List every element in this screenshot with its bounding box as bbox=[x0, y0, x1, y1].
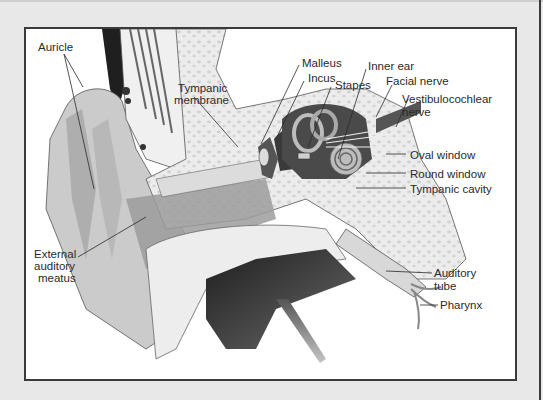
label-auditory-tube-line2: tube bbox=[434, 280, 456, 292]
page-right-edge bbox=[539, 0, 541, 400]
label-auditory-tube-line1: Auditory bbox=[434, 267, 476, 279]
label-inner-ear: Inner ear bbox=[368, 60, 414, 72]
label-vestibulocochlear-nerve-line2: nerve bbox=[402, 106, 431, 118]
label-external-auditory-meatus-line2: auditory bbox=[34, 260, 75, 272]
label-round-window: Round window bbox=[410, 168, 485, 180]
label-oval-window: Oval window bbox=[410, 149, 475, 161]
styloid-process bbox=[276, 299, 326, 363]
diagram-frame: Auricle Tympanic membrane Malleus Incus … bbox=[24, 27, 517, 381]
label-auricle: Auricle bbox=[38, 41, 73, 53]
label-malleus: Malleus bbox=[302, 57, 342, 69]
label-incus: Incus bbox=[308, 72, 336, 84]
page-top-edge bbox=[0, 0, 543, 2]
label-external-auditory-meatus-line3: meatus bbox=[38, 272, 76, 284]
label-vestibulocochlear-nerve-line1: Vestibulocochlear bbox=[402, 93, 492, 105]
label-tympanic-membrane-line2: membrane bbox=[174, 94, 229, 106]
label-tympanic-cavity: Tympanic cavity bbox=[410, 183, 492, 195]
label-external-auditory-meatus-line1: External bbox=[34, 248, 76, 260]
label-facial-nerve: Facial nerve bbox=[386, 75, 449, 87]
label-tympanic-membrane-line1: Tympanic bbox=[178, 82, 227, 94]
label-stapes: Stapes bbox=[335, 79, 371, 91]
label-pharynx: Pharynx bbox=[440, 299, 482, 311]
